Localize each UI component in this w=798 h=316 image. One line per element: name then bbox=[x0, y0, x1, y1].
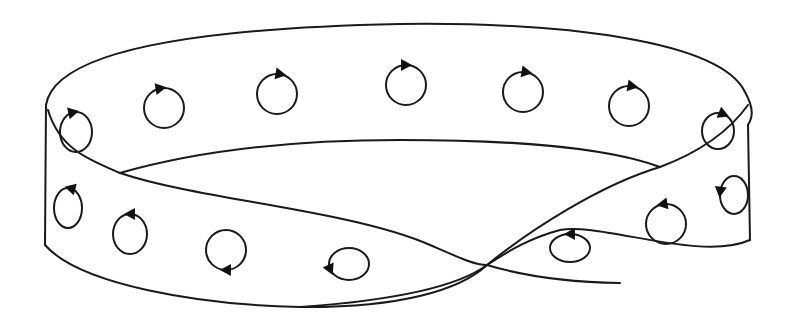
orientation-circle-icon bbox=[503, 66, 543, 112]
twist-rising-edge bbox=[300, 105, 748, 307]
outer-top-edge bbox=[46, 24, 752, 125]
orientation-circle-icon bbox=[54, 184, 82, 228]
twist-front-left-edge bbox=[48, 110, 620, 283]
orientation-circle-icon bbox=[144, 83, 184, 128]
circle-outline bbox=[386, 65, 426, 105]
orientation-circle-icon bbox=[60, 108, 92, 152]
clockwise-arrow-icon bbox=[401, 59, 412, 71]
counterclockwise-arrow-icon bbox=[657, 198, 669, 210]
orientation-circle-icon bbox=[702, 107, 734, 149]
circle-outline bbox=[144, 88, 184, 128]
clockwise-arrow-icon bbox=[627, 80, 639, 92]
circle-outline bbox=[113, 214, 147, 254]
orientation-circle-icon bbox=[257, 68, 297, 114]
clockwise-arrow-icon bbox=[67, 108, 79, 120]
circle-outline bbox=[206, 230, 246, 270]
orientation-circle-icon bbox=[715, 176, 748, 214]
circle-outline bbox=[60, 112, 92, 152]
left-side-edge bbox=[45, 105, 46, 245]
mobius-strip-canvas bbox=[0, 0, 798, 316]
clockwise-arrow-icon bbox=[155, 83, 167, 95]
circle-outline bbox=[646, 204, 686, 244]
orientation-circle-icon bbox=[206, 230, 246, 276]
circle-outline bbox=[503, 72, 543, 112]
circle-outline bbox=[609, 86, 649, 126]
orientation-circle-icon bbox=[323, 248, 369, 280]
clockwise-arrow-icon bbox=[275, 68, 287, 80]
circle-outline bbox=[720, 176, 748, 214]
inner-back-edge bbox=[120, 140, 660, 173]
right-side-edge bbox=[748, 125, 750, 240]
orientation-circle-icon bbox=[386, 59, 426, 105]
circle-outline bbox=[54, 188, 82, 228]
clockwise-arrow-icon bbox=[521, 66, 533, 78]
circle-outline bbox=[702, 113, 734, 149]
counterclockwise-arrow-icon bbox=[65, 184, 77, 196]
orientation-circles bbox=[54, 59, 748, 280]
clockwise-arrow-icon bbox=[220, 264, 231, 276]
circle-outline bbox=[257, 74, 297, 114]
circle-outline bbox=[329, 248, 369, 280]
orientation-circle-icon bbox=[609, 80, 649, 126]
orientation-circle-icon bbox=[113, 208, 147, 254]
counterclockwise-arrow-icon bbox=[124, 208, 135, 220]
circle-outline bbox=[550, 234, 590, 262]
orientation-circle-icon bbox=[646, 198, 686, 244]
orientation-circle-icon bbox=[550, 228, 590, 262]
mobius-strip-diagram: Möbius strip with orientation circles bbox=[0, 0, 798, 316]
